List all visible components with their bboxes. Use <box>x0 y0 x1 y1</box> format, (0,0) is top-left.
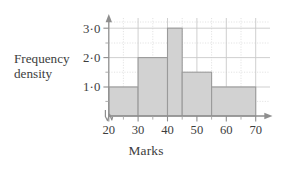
histogram-bar <box>168 28 183 116</box>
histogram-bar <box>182 72 211 116</box>
x-tick-label: 30 <box>132 123 145 137</box>
y-tick-label: 3·0 <box>83 22 100 36</box>
x-tick-label: 20 <box>103 123 116 137</box>
histogram-figure: 20 30 40 50 60 70 1·0 2·0 3·0 Frequency … <box>0 0 292 171</box>
y-axis-tick-labels: 1·0 2·0 3·0 <box>83 22 100 95</box>
y-axis-arrow-icon <box>106 14 112 22</box>
histogram-bar <box>138 58 167 116</box>
x-axis-label: Marks <box>0 143 292 158</box>
y-axis-major-ticks <box>103 28 108 87</box>
y-tick-label: 1·0 <box>83 80 100 94</box>
x-tick-label: 50 <box>191 123 204 137</box>
x-axis-arrow-icon <box>264 113 272 120</box>
y-axis-label-line-2: density <box>14 67 70 82</box>
histogram-bar <box>212 87 256 116</box>
x-axis-tick-labels: 20 30 40 50 60 70 <box>103 123 262 137</box>
y-tick-label: 2·0 <box>83 51 100 65</box>
x-tick-label: 70 <box>249 123 262 137</box>
x-tick-label: 60 <box>220 123 233 137</box>
histogram-bar <box>109 87 138 116</box>
x-tick-label: 40 <box>161 123 174 137</box>
y-axis-label-line-1: Frequency <box>14 52 70 67</box>
y-axis-label: Frequency density <box>14 52 70 82</box>
